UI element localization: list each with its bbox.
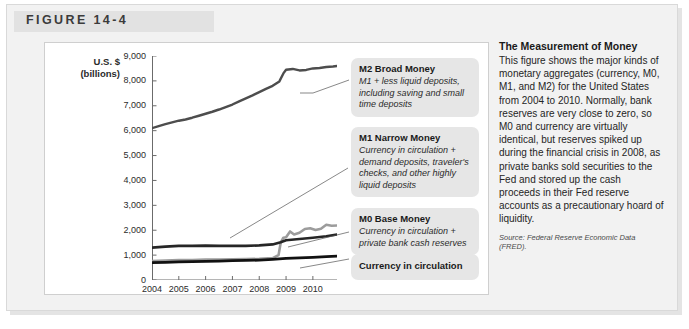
callout-m2-description: M1 + less liquid deposits, including sav… bbox=[359, 76, 471, 111]
callout-m2-title: M2 Broad Money bbox=[359, 63, 471, 75]
y-tick-label: 2,000 bbox=[108, 225, 146, 235]
callout-m1-title: M1 Narrow Money bbox=[359, 132, 471, 144]
callout-m0-description: Currency in circulation + private bank c… bbox=[359, 226, 471, 249]
y-tick-label: 6,000 bbox=[108, 125, 146, 135]
x-tick-label: 2010 bbox=[296, 284, 330, 294]
figure-number-label: FIGURE 14-4 bbox=[26, 13, 128, 27]
callout-m0-title: M0 Base Money bbox=[359, 213, 471, 225]
text-panel-heading: The Measurement of Money bbox=[499, 40, 664, 53]
y-tick-label: 0 bbox=[108, 275, 146, 285]
callout-m1-narrow-money: M1 Narrow Money Currency in circulation … bbox=[351, 127, 479, 197]
series-line-m1-narrow-money bbox=[152, 234, 337, 247]
callout-currency-title: Currency in circulation bbox=[359, 260, 471, 272]
callout-m0-base-money: M0 Base Money Currency in circulation + … bbox=[351, 208, 479, 255]
y-tick-label: 8,000 bbox=[108, 75, 146, 85]
callout-currency-in-circulation: Currency in circulation bbox=[351, 254, 479, 280]
series-line-m0-base-money bbox=[152, 225, 337, 261]
text-panel-source: Source: Federal Reserve Economic Data (F… bbox=[499, 233, 664, 252]
callout-m1-description: Currency in circulation + demand deposit… bbox=[359, 145, 471, 191]
explanatory-text-panel: The Measurement of Money This figure sho… bbox=[499, 40, 664, 252]
callout-m2-broad-money: M2 Broad Money M1 + less liquid deposits… bbox=[351, 58, 479, 117]
chart-lines bbox=[152, 56, 337, 280]
y-tick-label: 9,000 bbox=[108, 51, 146, 61]
series-line-m2-broad-money bbox=[152, 66, 337, 128]
figure-container: FIGURE 14-4 U.S. $ (billions) 9,0008,000… bbox=[0, 0, 689, 329]
y-tick-label: 4,000 bbox=[108, 175, 146, 185]
text-panel-body: This figure shows the major kinds of mon… bbox=[499, 54, 664, 226]
y-tick-label: 3,000 bbox=[108, 200, 146, 210]
y-tick-label: 7,000 bbox=[108, 100, 146, 110]
y-tick-label: 1,000 bbox=[108, 250, 146, 260]
plot-area bbox=[152, 56, 337, 280]
y-tick-label: 5,000 bbox=[108, 150, 146, 160]
